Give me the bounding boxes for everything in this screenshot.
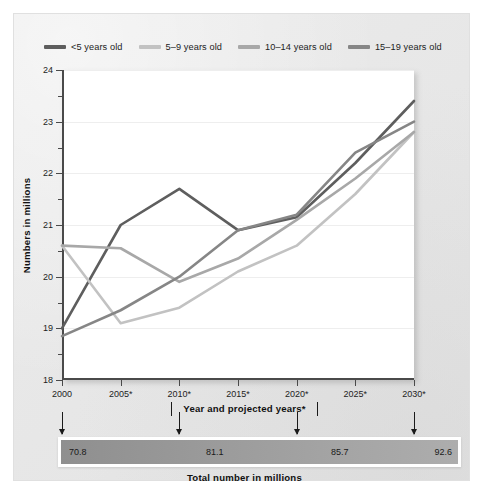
y-axis-tick-label: 20 [31, 272, 53, 282]
y-axis-tick-label: 19 [31, 323, 53, 333]
total-bar-value: 85.7 [331, 447, 349, 457]
callout-arrow [179, 412, 180, 434]
legend-swatch-icon [44, 45, 66, 49]
x-axis-tick [62, 380, 63, 386]
legend-swatch-icon [238, 45, 260, 49]
y-axis-tick-label: 21 [31, 220, 53, 230]
x-axis-tick [121, 380, 122, 386]
callout-arrow [414, 412, 415, 434]
total-bar-frame: 70.881.185.792.6 [58, 437, 461, 467]
line-series [62, 101, 414, 328]
legend-item-label: 10–14 years old [265, 42, 332, 52]
x-axis-tick [355, 380, 356, 386]
legend-swatch-icon [348, 45, 370, 49]
line-series-group [62, 70, 414, 380]
line-series [62, 132, 414, 282]
total-bar-value: 92.6 [434, 447, 452, 457]
legend-item: <5 years old [44, 42, 123, 52]
chart-legend: <5 years old5–9 years old10–14 years old… [44, 38, 444, 56]
y-axis-tick-label: 24 [31, 65, 53, 75]
x-axis-title: Year and projected years* [0, 398, 489, 416]
y-axis-tick-label: 22 [31, 168, 53, 178]
chart-page: <5 years old5–9 years old10–14 years old… [0, 0, 489, 500]
plot-area: 18192021222324 20002005*2010*2015*2020*2… [62, 70, 414, 380]
callout-arrow [62, 412, 63, 434]
total-bar-caption: Total number in millions [0, 472, 489, 483]
legend-item-label: 5–9 years old [166, 42, 222, 52]
legend-item: 10–14 years old [238, 42, 332, 52]
legend-item: 15–19 years old [348, 42, 442, 52]
legend-swatch-icon [139, 45, 161, 49]
legend-item-label: 15–19 years old [375, 42, 442, 52]
total-bar-value: 70.8 [69, 447, 87, 457]
legend-item-label: <5 years old [71, 42, 123, 52]
x-axis-tick [297, 380, 298, 386]
x-axis-tick [414, 380, 415, 386]
callout-arrow [297, 412, 298, 434]
y-axis-tick-label: 18 [31, 375, 53, 385]
x-axis-tick [179, 380, 180, 386]
line-series [62, 132, 414, 323]
x-axis-tick [238, 380, 239, 386]
total-bar-value: 81.1 [206, 447, 224, 457]
y-axis-tick-label: 23 [31, 117, 53, 127]
total-bar: 70.881.185.792.6 [61, 440, 458, 464]
line-series [62, 122, 414, 336]
legend-item: 5–9 years old [139, 42, 222, 52]
